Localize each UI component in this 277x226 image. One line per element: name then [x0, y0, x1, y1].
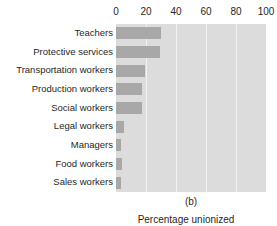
bar-managers — [116, 139, 121, 151]
x-tick-label-40: 40 — [170, 6, 181, 17]
bar-chart-figure: 020406080100 TeachersProtective services… — [0, 0, 277, 226]
category-label-protective-services: Protective services — [0, 43, 113, 62]
bar-row — [116, 173, 266, 192]
bar-row — [116, 99, 266, 118]
bar-row — [116, 80, 266, 99]
bar-row — [116, 136, 266, 155]
bar-social-workers — [116, 102, 142, 114]
category-axis-labels: TeachersProtective servicesTransportatio… — [0, 24, 113, 192]
category-label-production-workers: Production workers — [0, 80, 113, 99]
x-tick-label-80: 80 — [230, 6, 241, 17]
bar-sales-workers — [116, 177, 121, 189]
bar-row — [116, 43, 266, 62]
x-tick-label-0: 0 — [113, 6, 119, 17]
x-tick-label-60: 60 — [200, 6, 211, 17]
category-label-teachers: Teachers — [0, 24, 113, 43]
bar-legal-workers — [116, 121, 124, 133]
bar-row — [116, 155, 266, 174]
x-axis-tick-labels: 020406080100 — [116, 6, 266, 20]
bar-food-workers — [116, 158, 122, 170]
bar-teachers — [116, 27, 161, 39]
x-tick-label-20: 20 — [140, 6, 151, 17]
bar-transportation-workers — [116, 65, 145, 77]
category-label-food-workers: Food workers — [0, 155, 113, 174]
figure-caption: (b) — [116, 196, 266, 207]
category-label-sales-workers: Sales workers — [0, 173, 113, 192]
bar-row — [116, 117, 266, 136]
plot-area — [116, 24, 266, 192]
category-label-legal-workers: Legal workers — [0, 117, 113, 136]
bar-protective-services — [116, 46, 160, 58]
x-axis-title: Percentage unionized — [96, 214, 276, 226]
bar-row — [116, 24, 266, 43]
category-label-social-workers: Social workers — [0, 99, 113, 118]
bar-production-workers — [116, 83, 142, 95]
x-tick-label-100: 100 — [258, 6, 275, 17]
category-label-transportation-workers: Transportation workers — [0, 61, 113, 80]
category-label-managers: Managers — [0, 136, 113, 155]
bar-row — [116, 61, 266, 80]
